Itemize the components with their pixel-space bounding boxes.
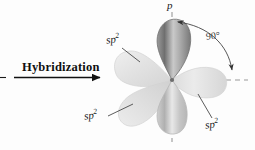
sp2-label-lower-left-sup: 2 (93, 107, 98, 116)
p-orbital-label: p (167, 0, 173, 11)
angle-label: 90° (206, 30, 221, 41)
sp2-hybridization-figure: Hybridization p 90° sp2 sp2 sp2 (0, 0, 255, 150)
sp2-label-lower-right-sup: 2 (214, 116, 219, 125)
sp2-label-lower-right: sp2 (204, 118, 219, 131)
sp2-label-lower-left: sp2 (83, 109, 98, 122)
orbital-node-center (170, 78, 174, 82)
sp2-label-upper-left-sup: 2 (115, 31, 120, 40)
hybridization-label: Hybridization (22, 60, 100, 75)
sp2-label-upper-left: sp2 (105, 33, 120, 46)
